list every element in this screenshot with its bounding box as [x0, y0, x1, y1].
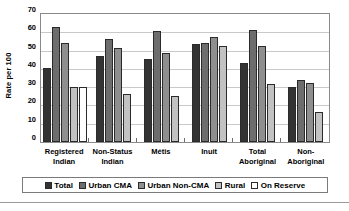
bar[interactable] — [162, 53, 170, 142]
bar[interactable] — [144, 59, 152, 142]
x-axis-label-line: Non-Status — [88, 147, 136, 157]
x-axis-label-line: Métis — [137, 147, 185, 157]
bar-group — [89, 14, 137, 142]
x-axis-category-label: Inuit — [185, 146, 233, 172]
y-axis-tick: 60 — [28, 25, 36, 33]
x-axis-category-label: RegisteredIndian — [40, 146, 88, 172]
bar-group — [281, 14, 329, 142]
bar[interactable] — [96, 56, 104, 142]
chart-legend: TotalUrban CMAUrban Non-CMARuralOn Reser… — [22, 177, 328, 193]
bar[interactable] — [297, 80, 305, 142]
bar[interactable] — [171, 96, 179, 142]
y-axis-tick-labels: 010203040506070 — [18, 9, 38, 143]
legend-label: Total — [54, 181, 73, 190]
bar[interactable] — [201, 43, 209, 142]
bar[interactable] — [52, 27, 60, 142]
legend-item[interactable]: Urban Non-CMA — [138, 181, 209, 190]
bar[interactable] — [79, 87, 87, 142]
y-axis-title: Rate per 100 — [0, 0, 18, 150]
x-axis-category-label: Métis — [137, 146, 185, 172]
bar[interactable] — [105, 39, 113, 142]
bar-group — [137, 14, 185, 142]
bar[interactable] — [61, 43, 69, 142]
x-axis-category-label: Non-StatusIndian — [88, 146, 136, 172]
bar[interactable] — [315, 112, 323, 142]
bar[interactable] — [192, 44, 200, 142]
x-axis-category-labels: RegisteredIndianNon-StatusIndianMétisInu… — [40, 146, 330, 172]
x-axis-label-line: Aboriginal — [282, 157, 330, 167]
y-axis-tick: 40 — [28, 61, 36, 69]
bar[interactable] — [114, 48, 122, 142]
x-axis-label-line: Indian — [88, 157, 136, 167]
bar[interactable] — [249, 30, 257, 142]
legend-swatch-icon — [138, 182, 145, 189]
bar[interactable] — [258, 46, 266, 142]
legend-item[interactable]: Urban CMA — [79, 181, 132, 190]
bar-group — [233, 14, 281, 142]
plot-area — [40, 13, 330, 143]
x-axis-label-line: Aboriginal — [233, 157, 281, 167]
bar[interactable] — [70, 87, 78, 142]
y-axis-tick: 30 — [28, 79, 36, 87]
bar[interactable] — [123, 94, 131, 142]
legend-swatch-icon — [79, 182, 86, 189]
x-axis-label-line: Total — [233, 147, 281, 157]
y-axis-tick: 70 — [28, 6, 36, 14]
x-axis-label-line: Non- — [282, 147, 330, 157]
bar[interactable] — [240, 63, 248, 142]
legend-swatch-icon — [45, 182, 52, 189]
legend-item[interactable]: Rural — [215, 181, 245, 190]
x-axis-label-line: Registered — [40, 147, 88, 157]
bar-chart-figure: Rate per 100 010203040506070 RegisteredI… — [0, 0, 349, 211]
y-axis-tick: 20 — [28, 98, 36, 106]
legend-swatch-icon — [215, 182, 222, 189]
bar-group — [41, 14, 89, 142]
legend-label: Rural — [225, 181, 245, 190]
legend-label: Urban CMA — [88, 181, 132, 190]
y-axis-tick: 0 — [32, 134, 36, 142]
legend-swatch-icon — [251, 182, 258, 189]
bar[interactable] — [267, 84, 275, 142]
y-axis-title-text: Rate per 100 — [5, 52, 14, 98]
legend-item[interactable]: On Reserve — [251, 181, 305, 190]
bottom-divider — [0, 202, 349, 203]
bar[interactable] — [219, 46, 227, 142]
y-axis-tick: 50 — [28, 43, 36, 51]
x-axis-category-label: Non-Aboriginal — [282, 146, 330, 172]
x-axis-label-line: Indian — [40, 157, 88, 167]
bar[interactable] — [210, 37, 218, 142]
legend-label: On Reserve — [261, 181, 305, 190]
bar[interactable] — [43, 68, 51, 142]
bar[interactable] — [306, 83, 314, 142]
bar[interactable] — [153, 31, 161, 142]
bar-group — [185, 14, 233, 142]
x-axis-label-line: Inuit — [185, 147, 233, 157]
legend-label: Urban Non-CMA — [147, 181, 209, 190]
x-axis-category-label: TotalAboriginal — [233, 146, 281, 172]
y-axis-tick: 10 — [28, 116, 36, 124]
bar[interactable] — [288, 87, 296, 142]
bar-groups — [41, 14, 329, 142]
legend-item[interactable]: Total — [45, 181, 73, 190]
